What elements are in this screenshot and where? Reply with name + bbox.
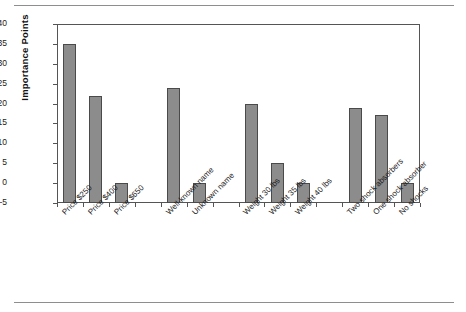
x-axis-labels: Price $250Price $400Price $650Well-known… xyxy=(0,0,466,312)
chart-figure: Importance Points 4035302520151050-5 Pri… xyxy=(0,0,466,312)
